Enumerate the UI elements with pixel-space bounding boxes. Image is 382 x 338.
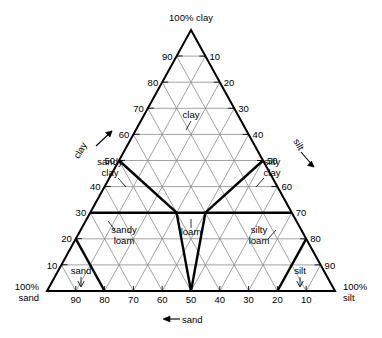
- tick-label-sand-60: 60: [157, 294, 168, 305]
- tick-label-clay-80: 80: [148, 77, 159, 88]
- tick-marks: [61, 56, 320, 291]
- tick-label-clay-40: 40: [90, 181, 101, 192]
- region-label-sandy-clay-line2: clay: [102, 167, 119, 178]
- axis-label-silt: silt: [291, 136, 307, 152]
- axis-label-silt-group: silt: [291, 136, 314, 167]
- region-label-silt: silt: [294, 265, 306, 286]
- gridlines: [61, 56, 320, 291]
- region-label-silty-clay-line1: silty: [264, 156, 281, 167]
- tick-label-silt-10: 10: [209, 51, 220, 62]
- axis-label-clay: clay: [71, 140, 89, 160]
- tick-label-silt-60: 60: [281, 181, 292, 192]
- region-label-sandy-clay: sandyclay: [97, 156, 126, 187]
- corner-label-sand-line2: sand: [18, 292, 39, 303]
- tick-label-clay-10: 10: [47, 260, 58, 271]
- tick-label-silt-40: 40: [253, 129, 264, 140]
- apex-label-clay: 100% clay: [169, 12, 213, 23]
- gridline-silt-10: [76, 56, 206, 291]
- tick-label-silt-90: 90: [325, 260, 336, 271]
- tick-label-clay-60: 60: [119, 129, 130, 140]
- tick-label-sand-40: 40: [215, 294, 226, 305]
- tick-label-clay-20: 20: [61, 233, 72, 244]
- region-label-sandy-loam: sandyloam: [108, 221, 137, 246]
- region-label-sandy-clay-line1: sandy: [97, 156, 123, 167]
- gridline-silt-90: [306, 265, 320, 291]
- corner-label-silt-line1: 100%: [343, 281, 368, 292]
- axis-label-sand: sand: [182, 314, 203, 325]
- region-label-silty-loam-line2: loam: [249, 235, 270, 246]
- axis-arrow-silt-head: [308, 161, 315, 167]
- boundary-loam-right: [191, 213, 205, 291]
- tick-label-clay-30: 30: [76, 207, 87, 218]
- region-label-sandy-loam-line2: loam: [114, 235, 135, 246]
- region-label-silt-line1: silt: [294, 265, 306, 276]
- tick-label-sand-10: 10: [301, 294, 312, 305]
- axis-label-sand-group: sand: [163, 314, 203, 325]
- region-label-loam: loam: [181, 219, 202, 237]
- tick-label-clay-90: 90: [162, 51, 173, 62]
- region-label-clay: clay: [183, 109, 200, 130]
- tick-label-silt-30: 30: [238, 103, 249, 114]
- tick-label-sand-30: 30: [243, 294, 254, 305]
- region-label-sandy-loam-line1: sandy: [111, 224, 137, 235]
- soil-texture-triangle-figure: 9080706050403020101020304050607080909080…: [0, 0, 382, 338]
- axis-arrow-sand-head: [163, 316, 170, 322]
- tick-label-clay-70: 70: [133, 103, 144, 114]
- tick-label-silt-70: 70: [296, 207, 307, 218]
- tick-label-sand-80: 80: [99, 294, 110, 305]
- boundary-loam-left: [177, 213, 191, 291]
- region-label-clay-line1: clay: [183, 109, 200, 120]
- tick-label-sand-50: 50: [186, 294, 197, 305]
- ternary-diagram-svg: 9080706050403020101020304050607080909080…: [0, 0, 382, 338]
- tick-label-sand-20: 20: [272, 294, 283, 305]
- region-label-silty-clay-line2: clay: [264, 167, 281, 178]
- region-label-sand-line1: sand: [71, 265, 92, 276]
- corner-label-silt-line2: silt: [343, 292, 355, 303]
- leader-line-clay: [186, 121, 191, 130]
- corner-label-sand-line1: 100%: [15, 281, 40, 292]
- tick-label-sand-70: 70: [128, 294, 139, 305]
- tick-label-silt-80: 80: [310, 233, 321, 244]
- region-label-silty-loam-line1: silty: [251, 224, 268, 235]
- gridline-sand-10: [177, 56, 307, 291]
- leader-line-silty-clay: [256, 178, 264, 187]
- tick-label-sand-90: 90: [71, 294, 82, 305]
- region-label-sand: sand: [71, 265, 92, 286]
- leader-line-sandy-clay: [118, 178, 126, 187]
- region-label-silty-loam: siltyloam: [249, 224, 276, 246]
- tick-label-silt-20: 20: [224, 77, 235, 88]
- labels: 9080706050403020101020304050607080909080…: [15, 12, 368, 325]
